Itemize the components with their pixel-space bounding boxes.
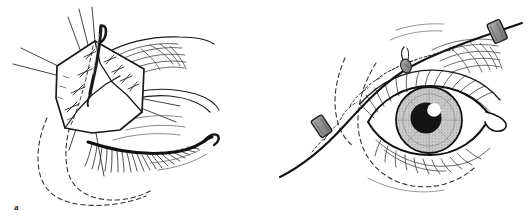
panel-a-illustration: [0, 0, 264, 223]
forehead-contour-b: [390, 24, 444, 40]
panel-b-illustration: [264, 0, 528, 223]
panel-label-a: a: [14, 203, 19, 212]
figure-root: a: [0, 0, 528, 223]
iris-b: [396, 87, 462, 153]
lateral-canthus-b: [485, 112, 506, 131]
suture-bolster-upper-b: [487, 19, 508, 44]
panel-a: a: [0, 0, 264, 223]
suture-knot-b: [399, 47, 413, 74]
corneal-highlight-b: [427, 103, 441, 117]
eyebrow-strokes-b: [432, 39, 502, 73]
panel-b: b: [264, 0, 528, 223]
suture-bolster-lower-b: [311, 114, 333, 138]
